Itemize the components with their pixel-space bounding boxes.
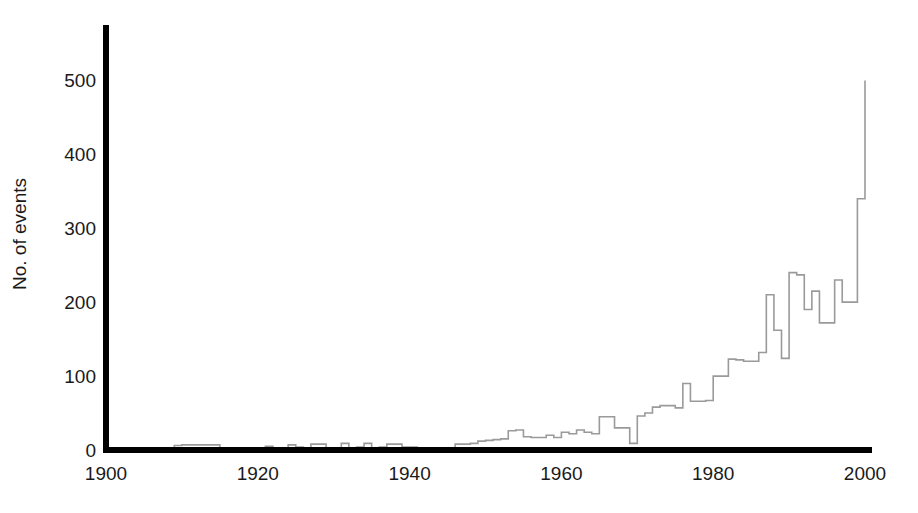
y-tick-label: 200	[38, 293, 96, 312]
x-tick-label: 1920	[237, 464, 279, 483]
x-tick-label: 2000	[844, 464, 886, 483]
y-tick-label: 0	[38, 441, 96, 460]
y-tick-label: 500	[38, 71, 96, 90]
data-series-line	[106, 80, 865, 450]
y-tick-label: 100	[38, 367, 96, 386]
x-tick-label: 1900	[85, 464, 127, 483]
y-tick-label: 300	[38, 219, 96, 238]
chart-container: No. of events 0100200300400500 190019201…	[0, 0, 918, 513]
y-tick-label: 400	[38, 145, 96, 164]
x-tick-label: 1980	[692, 464, 734, 483]
x-tick-label: 1960	[540, 464, 582, 483]
y-axis-title: No. of events	[10, 178, 29, 290]
chart-plot-area	[0, 0, 918, 513]
x-tick-label: 1940	[388, 464, 430, 483]
